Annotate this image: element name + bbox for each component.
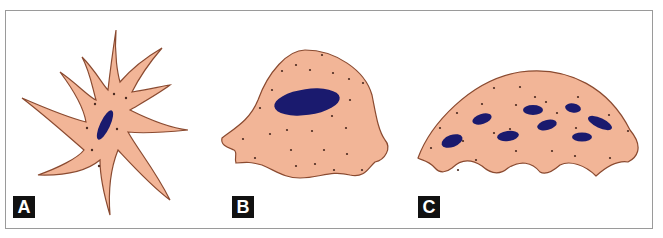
cell-c [418, 71, 638, 176]
cell-diagram [0, 0, 663, 238]
panel-label-a: A [13, 196, 35, 218]
panel-label-c: C [418, 196, 440, 218]
cell-b [222, 50, 388, 178]
panel-label-b: B [232, 196, 254, 218]
cell-a [22, 30, 188, 215]
